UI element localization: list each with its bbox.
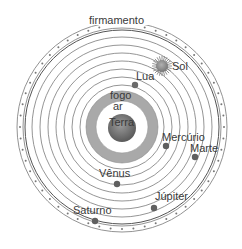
saturn-label: Saturno <box>73 204 112 216</box>
air-label: ar <box>113 100 123 112</box>
mercury-icon <box>163 143 169 149</box>
venus-label: Vênus <box>99 167 131 179</box>
earth-label: Terra <box>109 116 135 128</box>
diagram-canvas: firmamento Sol Lua fogo ar Terra Mercúri… <box>0 0 242 249</box>
mars-label: Marte <box>190 142 218 154</box>
mars-icon <box>192 154 198 160</box>
jupiter-icon <box>151 205 157 211</box>
sun-icon <box>152 56 172 76</box>
venus-icon <box>114 181 120 187</box>
geocentric-model-diagram: firmamento Sol Lua fogo ar Terra Mercúri… <box>0 0 242 249</box>
moon-label: Lua <box>136 70 155 82</box>
moon-icon <box>132 82 138 88</box>
firmament-label: firmamento <box>89 14 144 26</box>
sun-label: Sol <box>172 60 188 72</box>
jupiter-label: Júpiter <box>155 190 188 202</box>
saturn-icon <box>92 218 98 224</box>
